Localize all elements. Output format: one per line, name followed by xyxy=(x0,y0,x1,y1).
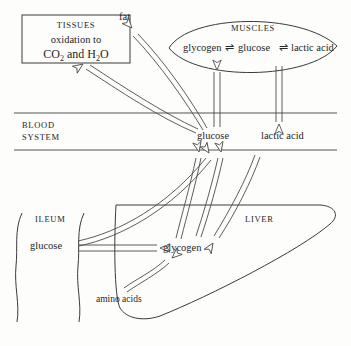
muscles-glucose: glucose xyxy=(238,42,270,53)
arrow-ileum-glucose-to-glycogen xyxy=(78,244,170,252)
chem-co: CO xyxy=(43,47,60,61)
blood-lactic-acid-label: lactic acid xyxy=(261,130,305,141)
arrow-blood-glucose-to-glycogen xyxy=(204,155,260,254)
muscles-lactic-acid: lactic acid xyxy=(291,42,335,53)
liver-outline xyxy=(115,205,336,319)
muscles-equilibrium-2: ⇌ xyxy=(279,41,288,53)
muscles-group: MUSCLES glycogen ⇌ glucose ⇌ lactic acid xyxy=(169,21,337,72)
ileum-wall-right xyxy=(78,213,84,322)
muscles-equilibrium-1: ⇌ xyxy=(225,41,234,53)
liver-group: LIVER glycogen amino acids xyxy=(96,205,335,319)
blood-glucose-label: glucose xyxy=(197,130,229,141)
liver-heading: LIVER xyxy=(245,214,274,224)
blood-system-group: BLOOD SYSTEM glucose lactic acid xyxy=(14,113,337,150)
tissues-group: TISSUES oxidation to CO2 and H2O xyxy=(22,15,130,63)
muscles-heading: MUSCLES xyxy=(231,23,275,33)
arrow-glucose-to-tissues xyxy=(72,61,198,133)
muscles-glycogen: glycogen xyxy=(183,42,222,53)
arrow-lactic-acid-to-blood xyxy=(275,66,283,134)
ileum-wall-left xyxy=(16,213,22,322)
ileum-glucose: glucose xyxy=(30,240,62,251)
tissues-chemistry: CO2 and H2O xyxy=(43,47,109,63)
tissues-line2: oxidation to xyxy=(51,34,101,45)
ileum-heading: ILEUM xyxy=(35,214,65,224)
arrow-liver-glycogen-to-blood-2 xyxy=(196,141,225,237)
arrow-liver-glycogen-to-blood-1 xyxy=(176,141,203,239)
blood-label-line1: BLOOD xyxy=(22,120,55,130)
liver-glycogen: glycogen xyxy=(163,242,202,253)
tissues-heading: TISSUES xyxy=(57,20,95,30)
amino-acids-label: amino acids xyxy=(96,294,142,304)
blood-label-line2: SYSTEM xyxy=(22,132,60,142)
chem-and: and H xyxy=(64,47,96,61)
ileum-group: ILEUM glucose xyxy=(16,213,84,322)
metabolism-diagram: TISSUES oxidation to CO2 and H2O fat MUS… xyxy=(0,0,351,346)
chem-o: O xyxy=(100,47,109,61)
arrow-amino-acids-to-glycogen xyxy=(124,248,182,292)
